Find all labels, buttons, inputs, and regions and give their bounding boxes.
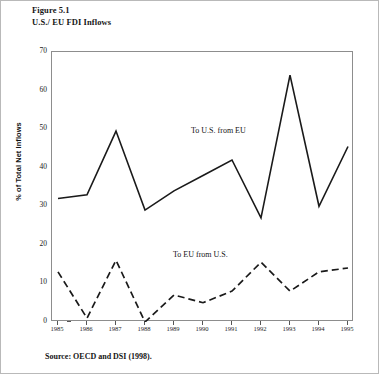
series-line-to-eu-from-us xyxy=(58,260,348,322)
plot-area xyxy=(51,51,353,321)
series-annotation-to-eu-from-us: To EU from U.S. xyxy=(173,250,228,259)
y-axis-title: % of Total Net Inflows xyxy=(14,77,23,247)
series-line-to-us-from-eu xyxy=(58,75,348,218)
x-axis-tick-label: 1995 xyxy=(330,325,364,332)
series-annotation-to-us-from-eu: To U.S. from EU xyxy=(191,126,246,135)
source-note: Source: OECD and DSI (1998). xyxy=(45,352,152,361)
chart-plot-svg xyxy=(52,52,354,322)
figure-container: Figure 5.1 U.S./ EU FDI Inflows 01020304… xyxy=(0,0,379,374)
